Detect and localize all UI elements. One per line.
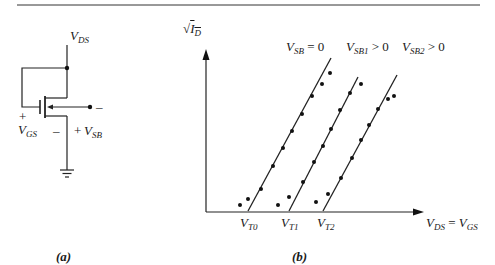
ground-icon [60,170,74,177]
body-terminal-dot [88,105,92,109]
x-axis-label: VDS = VGS [426,216,478,232]
vds-label: VDS [70,29,89,45]
body-arrow-icon [47,105,53,110]
y-axis-label: √ID [183,22,201,38]
data-points-vsb2 [314,94,396,204]
curve-label-vsb2: VSB2 > 0 [402,40,445,56]
plot-axes [206,58,415,212]
data-points-vsb0 [238,71,332,207]
threshold-label-vt2: VT2 [317,216,334,232]
drain-junction-dot [65,66,69,70]
fit-lines [248,58,397,211]
vsb-minus-sign: – [96,100,103,113]
y-axis-arrow-icon [203,49,210,60]
fit-line-vsb2 [323,75,397,211]
vgs-label: VGS [18,123,37,139]
vsb-label: VSB [84,124,102,140]
x-axis-arrow-icon [413,209,424,216]
caption-a: (a) [56,250,71,263]
nmos-circuit [22,45,90,170]
threshold-label-vt1: VT1 [281,216,298,232]
caption-b: (b) [292,250,307,263]
vgs-minus-sign: – [53,124,60,137]
curve-label-vsb0: VSB = 0 [286,40,324,56]
curve-label-vsb1: VSB1 > 0 [346,40,389,56]
data-points-vsb1 [276,82,363,207]
vsb-plus-sign: + [74,124,81,137]
fit-line-vsb1 [289,77,358,211]
threshold-label-vt0: VT0 [240,216,257,232]
